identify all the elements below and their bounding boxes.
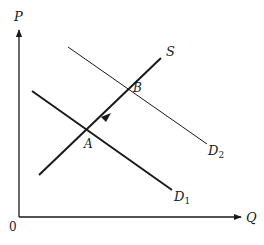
x-axis-label: Q (246, 210, 257, 225)
origin-label: 0 (9, 220, 17, 234)
y-axis-label: P (13, 9, 23, 24)
demand-d2-label: D2 (207, 143, 224, 160)
supply-curve (39, 58, 161, 175)
supply-demand-diagram: P Q 0 S D2 D1 A B (0, 0, 264, 245)
point-b-label: B (132, 81, 142, 95)
demand-curve-d1 (32, 91, 172, 190)
supply-label: S (166, 44, 175, 59)
demand-curve-d2 (68, 47, 207, 144)
demand-d1-label: D1 (173, 189, 190, 206)
point-a-label: A (83, 137, 93, 151)
